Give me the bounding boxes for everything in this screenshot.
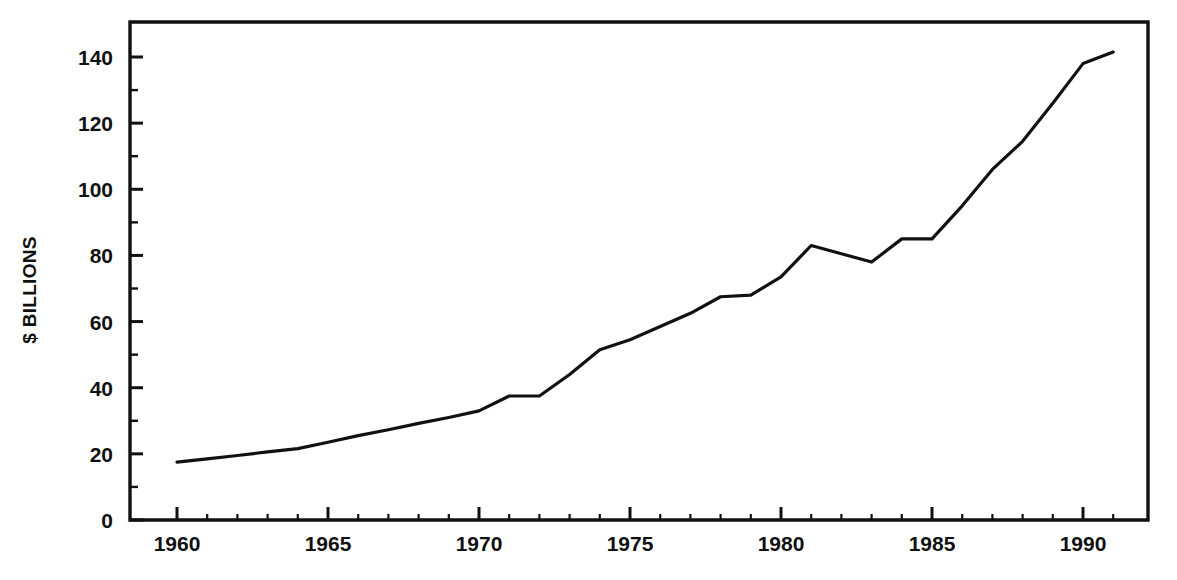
y-axis-ticks — [130, 57, 143, 520]
y-tick-label: 40 — [90, 377, 113, 400]
x-axis-tick-labels: 1960196519701975198019851990 — [154, 532, 1107, 555]
data-series-line — [177, 52, 1113, 462]
x-tick-label: 1970 — [456, 532, 503, 555]
x-tick-label: 1960 — [154, 532, 201, 555]
y-axis-tick-labels: 020406080100120140 — [78, 46, 113, 532]
y-tick-label: 120 — [78, 112, 113, 135]
x-tick-label: 1985 — [909, 532, 956, 555]
x-tick-label: 1975 — [607, 532, 654, 555]
x-axis-ticks — [177, 507, 1113, 520]
y-tick-label: 0 — [101, 509, 113, 532]
axes-box — [130, 22, 1148, 520]
x-tick-label: 1965 — [305, 532, 352, 555]
y-tick-label: 100 — [78, 178, 113, 201]
y-tick-label: 60 — [90, 311, 113, 334]
y-tick-label: 80 — [90, 244, 113, 267]
chart-figure: $ BILLIONS 020406080100120140 1960196519… — [0, 0, 1177, 580]
series-line-0 — [177, 52, 1113, 462]
plot-frame — [130, 22, 1148, 520]
y-tick-label: 20 — [90, 443, 113, 466]
line-chart-plot: 020406080100120140 196019651970197519801… — [0, 0, 1177, 580]
x-tick-label: 1980 — [758, 532, 805, 555]
y-tick-label: 140 — [78, 46, 113, 69]
x-tick-label: 1990 — [1060, 532, 1107, 555]
